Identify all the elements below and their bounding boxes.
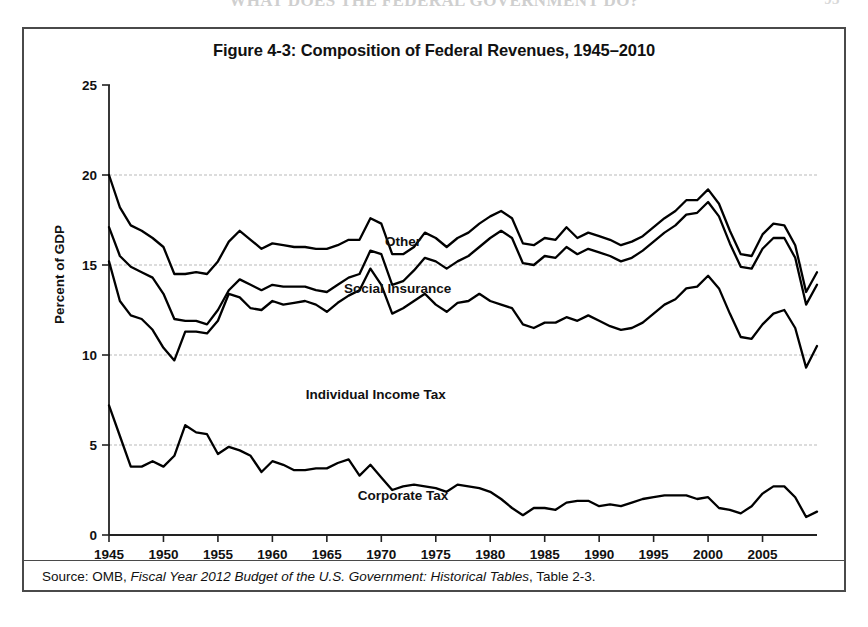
axis-ticks [102, 85, 763, 542]
y-tick-label-25: 25 [82, 78, 98, 93]
x-tick-label-1965: 1965 [312, 547, 343, 560]
running-head-text: WHAT DOES THE FEDERAL GOVERNMENT DO? [229, 0, 638, 9]
x-tick-label-1960: 1960 [257, 547, 287, 560]
gridlines [109, 175, 817, 445]
x-tick-label-1990: 1990 [584, 547, 614, 560]
source-note: Source: OMB, Fiscal Year 2012 Budget of … [42, 569, 596, 584]
running-head: WHAT DOES THE FEDERAL GOVERNMENT DO? 93 [0, 0, 868, 9]
x-tick-label-1980: 1980 [475, 547, 505, 560]
plot-area: Percent of GDP 0510152025 19451950195519… [24, 29, 848, 594]
x-tick-label-1955: 1955 [203, 547, 234, 560]
y-tick-label-10: 10 [82, 348, 97, 363]
x-tick-label-1985: 1985 [530, 547, 561, 560]
y-tick-label-0: 0 [89, 528, 97, 543]
source-divider [24, 560, 844, 561]
series-label-individual-income-tax: Individual Income Tax [306, 387, 447, 402]
y-tick-label-5: 5 [89, 438, 97, 453]
source-title: Fiscal Year 2012 Budget of the U.S. Gove… [131, 569, 529, 584]
series-label-other: Other [385, 234, 422, 249]
series-line-corporate-tax [109, 405, 817, 517]
series-label-social-insurance: Social Insurance [344, 281, 452, 296]
figure-box: Figure 4-3: Composition of Federal Reven… [22, 27, 846, 592]
x-tick-label-2000: 2000 [693, 547, 723, 560]
x-tick-label-1970: 1970 [366, 547, 396, 560]
axis-lines [109, 85, 817, 535]
series-label-corporate-tax: Corporate Tax [358, 488, 449, 503]
y-tick-label-20: 20 [82, 168, 97, 183]
page-number: 93 [824, 0, 840, 8]
y-tick-labels: 0510152025 [82, 78, 98, 543]
x-tick-label-2005: 2005 [748, 547, 779, 560]
x-tick-label-1945: 1945 [94, 547, 125, 560]
x-tick-label-1975: 1975 [421, 547, 452, 560]
data-series-group [109, 175, 817, 517]
revenue-composition-chart: 0510152025 19451950195519601965197019751… [24, 29, 848, 560]
x-tick-label-1950: 1950 [148, 547, 178, 560]
series-line-other [109, 175, 817, 292]
x-tick-label-1995: 1995 [639, 547, 670, 560]
y-tick-label-15: 15 [82, 258, 98, 273]
x-tick-labels: 1945195019551960196519701975198019851990… [94, 547, 778, 560]
page-canvas: WHAT DOES THE FEDERAL GOVERNMENT DO? 93 … [0, 0, 868, 627]
series-annotations: OtherSocial InsuranceIndividual Income T… [306, 234, 452, 503]
source-prefix: Source: OMB, [42, 569, 131, 584]
source-suffix: , Table 2-3. [529, 569, 596, 584]
